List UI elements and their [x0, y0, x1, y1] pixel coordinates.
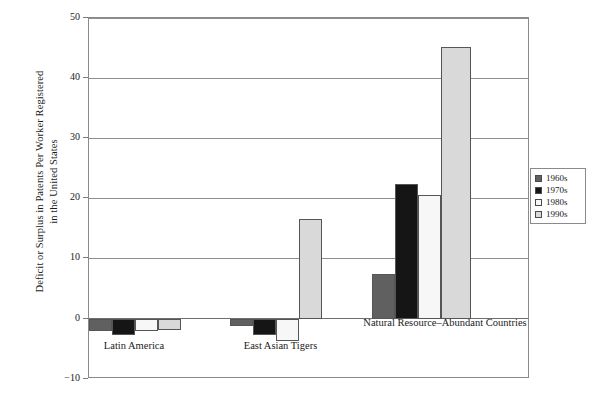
- legend-item-1980s[interactable]: 1980s: [535, 196, 582, 208]
- y-tick-label-10: 10: [40, 252, 80, 262]
- bar-latin-america-1990s: [158, 319, 181, 330]
- y-tick-label-50: 50: [40, 12, 80, 22]
- bar-east-asian-tigers-1970s: [253, 319, 276, 335]
- legend-swatch-1960s-icon: [535, 175, 542, 182]
- y-tick-label-neg10: −10: [36, 373, 80, 383]
- bar-east-asian-tigers-1960s: [230, 319, 253, 326]
- bar-natural-resource-1990s: [441, 47, 471, 319]
- legend-item-1970s[interactable]: 1970s: [535, 184, 582, 196]
- bar-east-asian-tigers-1990s: [299, 219, 322, 319]
- y-tick-label-0: 0: [40, 313, 80, 323]
- y-tick-label-40: 40: [40, 72, 80, 82]
- group-label-east-asian-tigers: East Asian Tigers: [208, 340, 353, 351]
- group-label-natural-resource: Natural Resource–Abundant Countries: [360, 317, 530, 328]
- legend-swatch-1970s-icon: [535, 187, 542, 194]
- bar-east-asian-tigers-1980s: [276, 319, 299, 341]
- y-tick-label-20: 20: [40, 192, 80, 202]
- bar-latin-america-1970s: [112, 319, 135, 335]
- legend-swatch-1980s-icon: [535, 199, 542, 206]
- group-label-latin-america: Latin America: [69, 340, 199, 351]
- legend-label-1980s: 1980s: [546, 198, 568, 207]
- bar-chart: Deficit or Surplus in Patents Per Worker…: [0, 0, 593, 400]
- bar-natural-resource-1980s: [418, 195, 441, 319]
- bar-natural-resource-1970s: [395, 184, 418, 319]
- y-tick-mark-neg10: [83, 378, 88, 379]
- legend-label-1960s: 1960s: [546, 174, 568, 183]
- gridline-50: [89, 18, 528, 19]
- legend-item-1990s[interactable]: 1990s: [535, 208, 582, 220]
- legend-item-1960s[interactable]: 1960s: [535, 172, 582, 184]
- y-tick-label-30: 30: [40, 132, 80, 142]
- legend: 1960s 1970s 1980s 1990s: [530, 168, 586, 224]
- bar-natural-resource-1960s: [372, 274, 395, 319]
- legend-swatch-1990s-icon: [535, 211, 542, 218]
- legend-label-1970s: 1970s: [546, 186, 568, 195]
- legend-label-1990s: 1990s: [546, 210, 568, 219]
- bar-latin-america-1980s: [135, 319, 158, 331]
- bar-latin-america-1960s: [89, 319, 112, 331]
